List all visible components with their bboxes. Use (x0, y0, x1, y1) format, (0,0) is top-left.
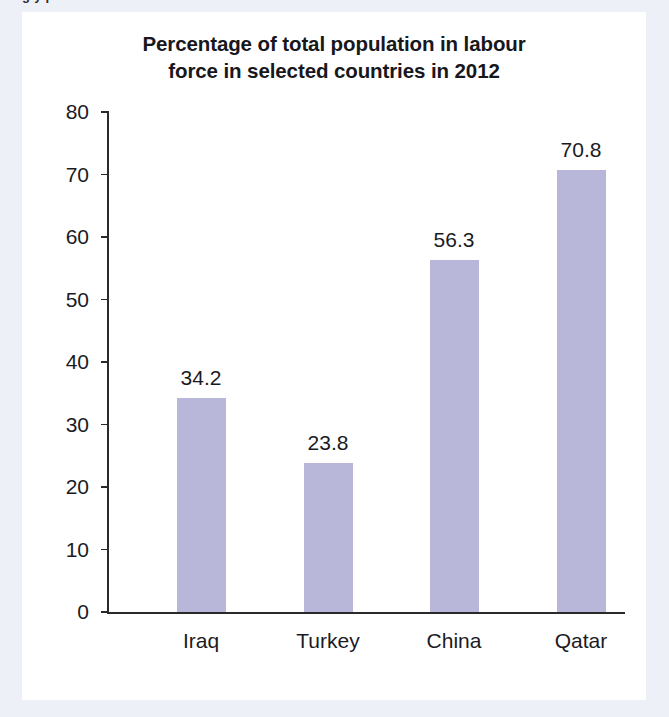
x-axis-category-label: Qatar (516, 630, 646, 651)
bar-value-label: 56.3 (399, 229, 509, 250)
x-axis-category-label: China (389, 630, 519, 651)
x-axis-category-label: Iraq (136, 630, 266, 651)
y-axis-tick-label: 40 (29, 351, 89, 372)
y-axis-tick (101, 486, 109, 488)
x-axis-line (107, 612, 625, 614)
bar[interactable] (304, 463, 353, 612)
bar[interactable] (557, 170, 606, 613)
plot-area: 01020304050607080 34.223.856.370.8 IraqT… (22, 12, 646, 700)
y-axis-tick (101, 361, 109, 363)
y-axis-tick (101, 424, 109, 426)
y-axis-tick (101, 174, 109, 176)
y-axis-tick (101, 549, 109, 551)
x-axis-category-label: Turkey (263, 630, 393, 651)
figure-panel: Percentage of total population in labour… (22, 12, 646, 700)
bar-value-label: 23.8 (273, 432, 383, 453)
bar[interactable] (177, 398, 226, 612)
y-axis-tick-label: 80 (29, 101, 89, 122)
y-axis-tick-label: 10 (29, 539, 89, 560)
y-axis-tick (101, 611, 109, 613)
cropped-text-artifact: g y p (0, 0, 669, 9)
y-axis-tick (101, 236, 109, 238)
bar-value-label: 70.8 (526, 139, 636, 160)
y-axis-tick-label: 20 (29, 476, 89, 497)
y-axis-tick (101, 111, 109, 113)
y-axis-tick-label: 60 (29, 226, 89, 247)
bar-value-label: 34.2 (146, 367, 256, 388)
y-axis-tick-label: 0 (29, 601, 89, 622)
y-axis-tick (101, 299, 109, 301)
y-axis-tick-label: 30 (29, 414, 89, 435)
y-axis-tick-label: 70 (29, 164, 89, 185)
y-axis-tick-label: 50 (29, 289, 89, 310)
bar[interactable] (430, 260, 479, 612)
cropped-text-glyphs: g y p (22, 0, 54, 3)
